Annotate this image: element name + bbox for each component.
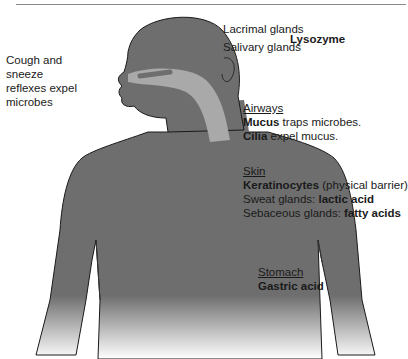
cough-label: Cough and sneeze reflexes expel microbes [6, 53, 86, 109]
airways-heading: Airways [243, 101, 361, 115]
cilia-term: Cilia [243, 130, 267, 142]
airways-label-block: Airways Mucus traps microbes. Cilia expe… [243, 101, 361, 143]
stomach-label-block: Stomach Gastric acid [258, 265, 324, 293]
sebaceous-glands-text: Sebaceous glands: [243, 207, 344, 219]
lactic-acid-term: lactic acid [318, 193, 374, 205]
stomach-heading: Stomach [258, 265, 324, 279]
keratinocytes-desc: (physical barrier) [319, 179, 408, 191]
lysozyme-label: Lysozyme [290, 32, 345, 46]
cilia-desc: expel mucus. [267, 130, 338, 142]
mucus-desc: traps microbes. [279, 116, 361, 128]
fatty-acids-term: fatty acids [344, 207, 401, 219]
keratinocytes-term: Keratinocytes [243, 179, 319, 191]
gastric-acid-term: Gastric acid [258, 280, 324, 292]
sweat-glands-text: Sweat glands: [243, 193, 318, 205]
skin-heading: Skin [243, 164, 408, 178]
mucus-term: Mucus [243, 116, 279, 128]
skin-label-block: Skin Keratinocytes (physical barrier) Sw… [243, 164, 408, 220]
